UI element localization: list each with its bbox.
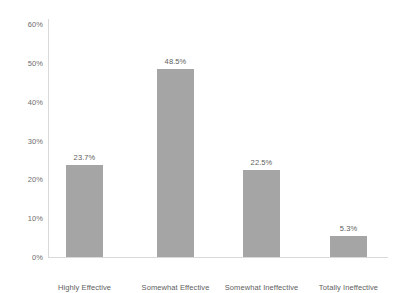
bar-rect-2[interactable] [243, 170, 280, 257]
x-axis-line [48, 257, 388, 258]
x-category-label-1: Somewhat Effective [142, 283, 210, 292]
x-category-label-3: Totally Ineffective [319, 283, 378, 292]
y-tick-label-5: 10% [28, 214, 43, 223]
bar-value-label-0: 23.7% [74, 153, 96, 162]
y-tick-label-6: 0% [32, 253, 43, 262]
bar-value-label-1: 48.5% [165, 57, 187, 66]
y-tick-label-4: 20% [28, 175, 43, 184]
bar-rect-1[interactable] [157, 69, 194, 257]
x-category-label-2: Somewhat Ineffective [225, 283, 299, 292]
x-category-label-0: Highly Effective [58, 283, 111, 292]
y-tick-label-3: 30% [28, 136, 43, 145]
bar-rect-3[interactable] [330, 236, 367, 257]
y-axis-line [48, 19, 49, 258]
bar-value-label-2: 22.5% [251, 158, 273, 167]
y-tick-label-0: 60% [28, 20, 43, 29]
bar-rect-0[interactable] [66, 165, 103, 257]
y-tick-label-1: 50% [28, 58, 43, 67]
plot-area: 60% 50% 40% 30% 20% 10% 0% 23.7% 48.5% 2… [48, 20, 388, 258]
bar-chart: 60% 50% 40% 30% 20% 10% 0% 23.7% 48.5% 2… [0, 0, 406, 293]
y-tick-label-2: 40% [28, 97, 43, 106]
bar-value-label-3: 5.3% [340, 224, 358, 233]
